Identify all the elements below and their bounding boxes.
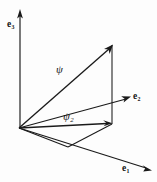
e3-axis-label-subscript: 3 xyxy=(11,24,14,30)
psi2-vector-label-subscript: 2 xyxy=(70,116,74,123)
base-edge-corner-to-projection xyxy=(68,124,112,147)
e3-axis-label: e3 xyxy=(7,20,14,31)
psi-vector-label: ψ xyxy=(56,64,63,75)
e1-axis xyxy=(19,128,152,172)
e3-axis xyxy=(17,9,23,128)
e2-axis-label: e2 xyxy=(133,92,140,103)
psi2-vector-label: ψ2 xyxy=(63,111,74,124)
e1-axis-line xyxy=(19,128,146,168)
base-edge-origin-to-corner xyxy=(19,128,68,147)
e1-axis-label: e1 xyxy=(122,164,129,175)
e2-axis-arrowhead xyxy=(121,96,131,102)
vector-decomposition-figure: e3 e2 e1 ψ ψ2 xyxy=(0,0,157,182)
e2-axis xyxy=(19,96,131,128)
e1-axis-label-subscript: 1 xyxy=(126,168,129,174)
e1-axis-arrowhead xyxy=(143,165,152,171)
e2-axis-label-subscript: 2 xyxy=(137,96,140,102)
